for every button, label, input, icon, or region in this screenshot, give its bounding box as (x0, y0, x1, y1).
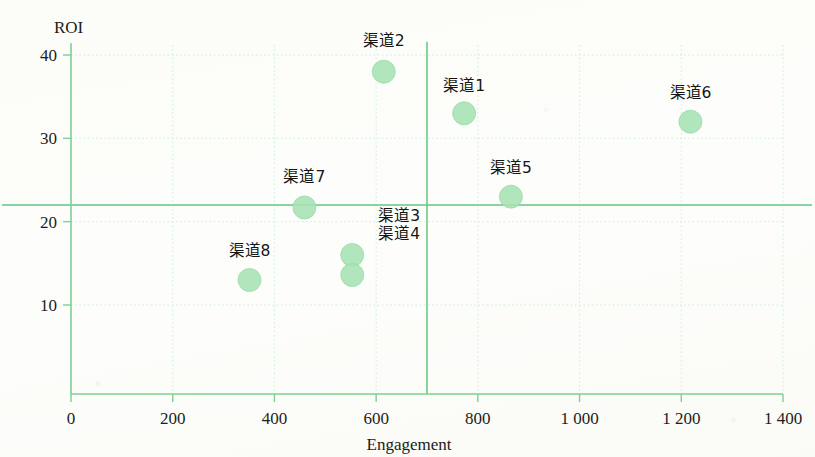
data-point-label: 渠道8 (229, 242, 271, 260)
data-point[interactable] (499, 185, 522, 208)
data-point-label: 渠道4 (378, 225, 420, 243)
data-point[interactable] (293, 196, 316, 219)
y-axis-title: ROI (54, 18, 84, 37)
x-tick-label: 800 (465, 409, 491, 428)
y-tick-label: 10 (40, 296, 57, 315)
data-point[interactable] (679, 110, 702, 133)
x-tick-label: 1 200 (662, 409, 700, 428)
data-point-label: 渠道7 (283, 168, 325, 186)
data-point-label: 渠道3 (378, 207, 420, 225)
data-point-label: 渠道2 (363, 32, 405, 50)
tick-labels-group: 1020304002004006008001 0001 2001 400 (40, 46, 802, 428)
x-tick-label: 400 (262, 409, 288, 428)
data-point-label: 渠道6 (670, 84, 712, 102)
data-point[interactable] (341, 244, 364, 267)
y-tick-label: 30 (40, 129, 57, 148)
x-tick-label: 200 (160, 409, 186, 428)
data-point[interactable] (341, 264, 364, 287)
data-point[interactable] (372, 60, 395, 83)
x-tick-label: 1 400 (764, 409, 802, 428)
y-tick-label: 40 (40, 46, 57, 65)
chart-canvas: 1020304002004006008001 0001 2001 400 渠道1… (0, 0, 815, 457)
x-axis-title: Engagement (367, 435, 452, 454)
data-point-label: 渠道5 (490, 159, 532, 177)
x-tick-label: 1 000 (560, 409, 598, 428)
data-point[interactable] (238, 269, 261, 292)
data-point[interactable] (453, 102, 476, 125)
data-point-label: 渠道1 (443, 77, 485, 95)
tick-marks-group (63, 55, 783, 402)
point-labels-group: 渠道1渠道2渠道3渠道4渠道5渠道6渠道7渠道8 (229, 32, 712, 260)
x-tick-label: 0 (67, 409, 76, 428)
scatter-plot: 1020304002004006008001 0001 2001 400 渠道1… (0, 0, 815, 457)
y-tick-label: 20 (40, 213, 57, 232)
x-tick-label: 600 (363, 409, 389, 428)
